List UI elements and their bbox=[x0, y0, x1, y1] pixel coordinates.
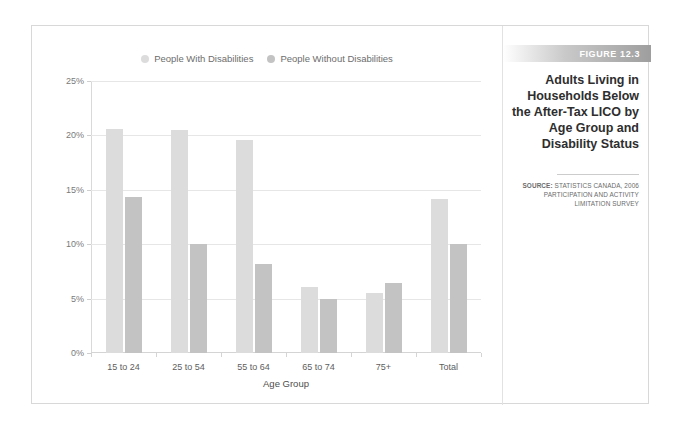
figure-title: Adults Living in Households Below the Af… bbox=[511, 72, 639, 152]
figure-source-label: SOURCE: bbox=[522, 182, 552, 189]
legend-item-without-disabilities: People Without Disabilities bbox=[267, 53, 392, 64]
x-tick-mark bbox=[156, 353, 157, 357]
figure-frame: People With Disabilities People Without … bbox=[31, 25, 649, 404]
x-tick-mark bbox=[481, 353, 482, 357]
chart-legend: People With Disabilities People Without … bbox=[32, 53, 502, 64]
y-tick-label: 15% bbox=[66, 185, 84, 195]
y-tick-label: 20% bbox=[66, 130, 84, 140]
x-tick-mark bbox=[91, 353, 92, 357]
y-tick-label: 25% bbox=[66, 76, 84, 86]
bar bbox=[320, 299, 337, 353]
x-tick-label: 25 to 54 bbox=[172, 362, 205, 372]
source-divider bbox=[557, 174, 639, 175]
bar bbox=[301, 287, 318, 353]
x-tick-mark bbox=[351, 353, 352, 357]
x-tick-mark bbox=[416, 353, 417, 357]
legend-label-without-disabilities: People Without Disabilities bbox=[280, 53, 392, 64]
x-tick-label: 55 to 64 bbox=[237, 362, 270, 372]
x-tick-label: Total bbox=[439, 362, 458, 372]
bar-group bbox=[416, 81, 481, 353]
bar-group bbox=[156, 81, 221, 353]
bar-group bbox=[351, 81, 416, 353]
bar bbox=[255, 264, 272, 353]
figure-number-label: FIGURE 12.3 bbox=[579, 49, 651, 59]
plot-area: 0%5%10%15%20%25%15 to 2425 to 5455 to 64… bbox=[91, 81, 481, 353]
y-tick-label: 0% bbox=[71, 348, 84, 358]
legend-swatch-without-disabilities bbox=[267, 55, 275, 63]
bar bbox=[190, 244, 207, 353]
y-tick-label: 10% bbox=[66, 239, 84, 249]
bar bbox=[431, 199, 448, 353]
bar bbox=[366, 293, 383, 353]
y-tick-label: 5% bbox=[71, 294, 84, 304]
bar bbox=[171, 130, 188, 353]
x-tick-mark bbox=[286, 353, 287, 357]
bar bbox=[125, 197, 142, 353]
legend-label-with-disabilities: People With Disabilities bbox=[154, 53, 253, 64]
figure-number-banner: FIGURE 12.3 bbox=[503, 45, 651, 62]
figure-source-text: STATISTICS CANADA, 2006 PARTICIPATION AN… bbox=[544, 182, 639, 207]
x-tick-mark bbox=[221, 353, 222, 357]
chart-region: People With Disabilities People Without … bbox=[32, 26, 502, 405]
bar bbox=[385, 283, 402, 353]
bar bbox=[450, 244, 467, 353]
x-tick-label: 75+ bbox=[376, 362, 391, 372]
legend-swatch-with-disabilities bbox=[141, 55, 149, 63]
bar-group bbox=[286, 81, 351, 353]
figure-source: SOURCE: STATISTICS CANADA, 2006 PARTICIP… bbox=[511, 181, 639, 208]
bar bbox=[106, 129, 123, 353]
bar-group bbox=[221, 81, 286, 353]
bar-group bbox=[91, 81, 156, 353]
bar bbox=[236, 140, 253, 353]
figure-side-panel: FIGURE 12.3 Adults Living in Households … bbox=[502, 26, 650, 405]
legend-item-with-disabilities: People With Disabilities bbox=[141, 53, 253, 64]
x-axis-title: Age Group bbox=[91, 378, 481, 389]
x-tick-label: 65 to 74 bbox=[302, 362, 335, 372]
x-tick-label: 15 to 24 bbox=[107, 362, 140, 372]
